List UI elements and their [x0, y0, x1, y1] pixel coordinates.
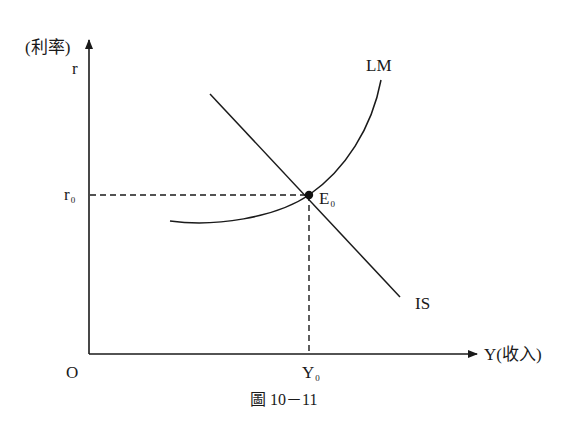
- is-label: IS: [415, 295, 430, 312]
- is-lm-diagram: [0, 0, 579, 443]
- y0-label: Y0: [302, 364, 320, 383]
- r0-label: r0: [64, 186, 75, 205]
- equilibrium-label: E0: [319, 190, 335, 209]
- y-axis-symbol: r: [72, 60, 78, 77]
- origin-label: O: [66, 364, 78, 381]
- y-axis-label: (利率): [25, 39, 70, 56]
- lm-curve: [170, 80, 381, 223]
- equilibrium-point: [305, 191, 313, 199]
- figure-caption: 圖 10－11: [250, 392, 317, 408]
- x-axis-label: Y(收入): [484, 346, 542, 363]
- lm-label: LM: [366, 57, 392, 74]
